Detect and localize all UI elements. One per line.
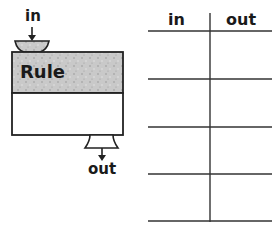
input-funnel — [15, 41, 49, 52]
table-cell-out-4[interactable] — [212, 176, 270, 219]
rule-label: Rule — [20, 63, 65, 81]
table-cell-out-2[interactable] — [212, 81, 270, 125]
input-arrow-icon — [28, 27, 36, 41]
table-cell-out-3[interactable] — [212, 129, 270, 172]
machine-body — [12, 93, 123, 135]
table-cell-in-4[interactable] — [150, 176, 208, 219]
table-header-in: in — [168, 12, 185, 28]
table-cell-in-3[interactable] — [150, 129, 208, 172]
table-cell-out-1[interactable] — [212, 33, 270, 77]
input-label: in — [25, 9, 41, 24]
output-funnel — [85, 135, 118, 148]
table-cell-in-1[interactable] — [150, 33, 208, 77]
table-header-out: out — [226, 12, 256, 28]
table-cell-in-2[interactable] — [150, 81, 208, 125]
output-label: out — [88, 162, 116, 177]
